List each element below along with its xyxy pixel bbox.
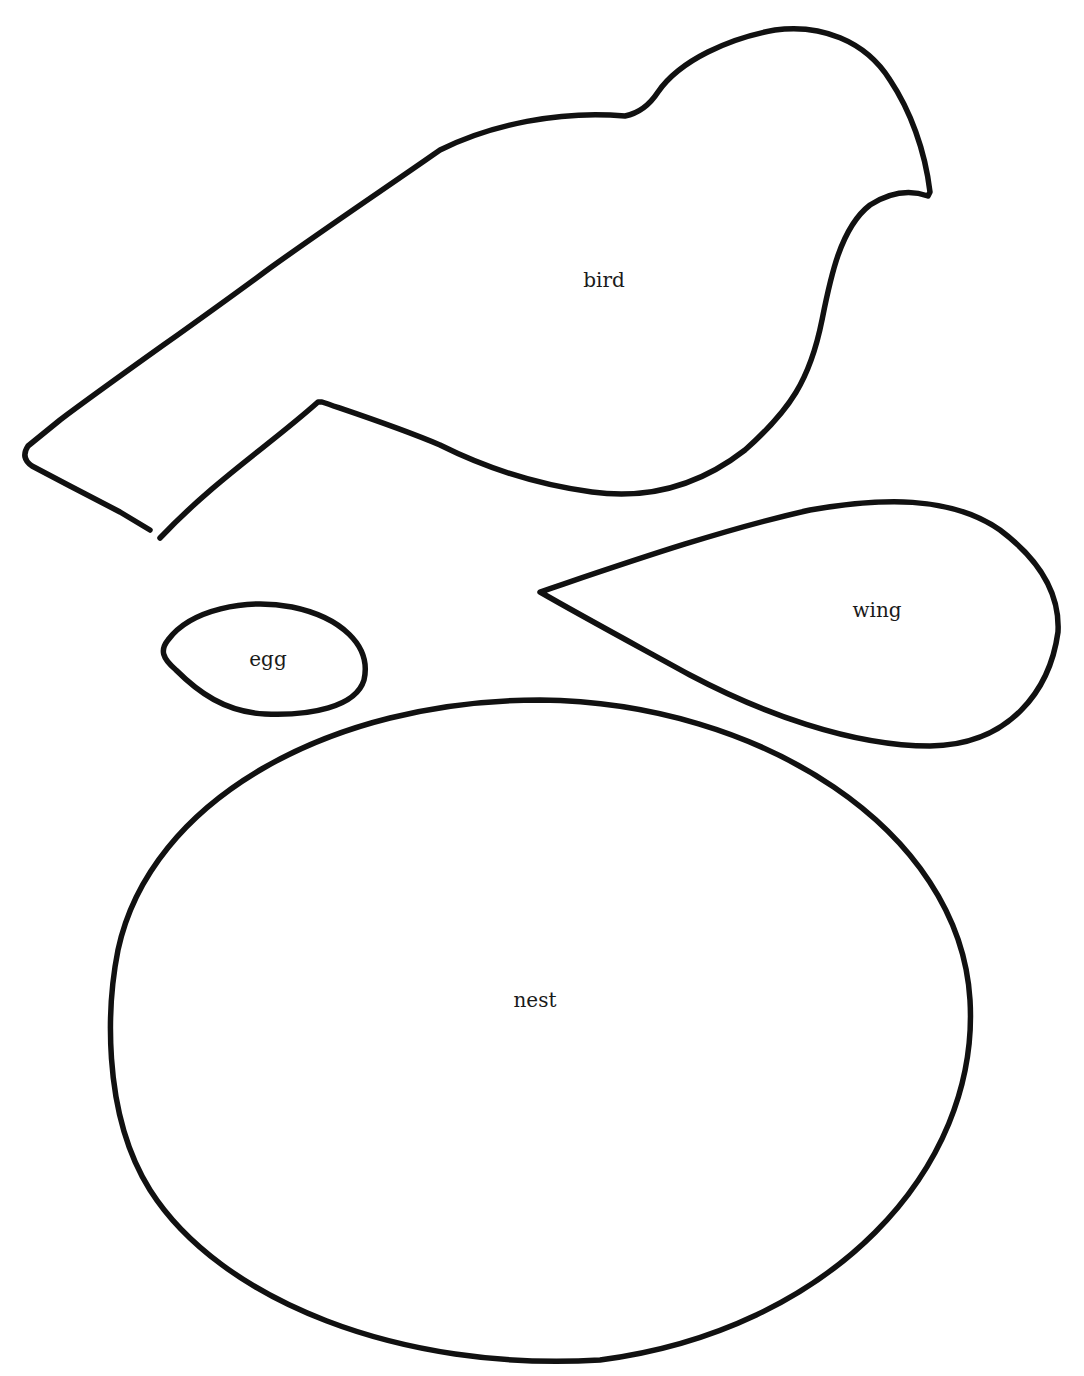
nest-outline <box>111 700 971 1361</box>
wing-piece: wing <box>540 502 1058 746</box>
wing-outline <box>540 502 1058 746</box>
egg-label: egg <box>249 647 287 671</box>
bird-outline <box>25 29 930 538</box>
nest-piece: nest <box>111 700 971 1361</box>
bird-piece: bird <box>25 29 930 538</box>
wing-label: wing <box>852 598 901 622</box>
bird-label: bird <box>583 268 625 292</box>
nest-label: nest <box>513 988 556 1012</box>
egg-piece: egg <box>163 604 365 714</box>
pattern-sheet: bird wing egg nest <box>0 0 1084 1376</box>
